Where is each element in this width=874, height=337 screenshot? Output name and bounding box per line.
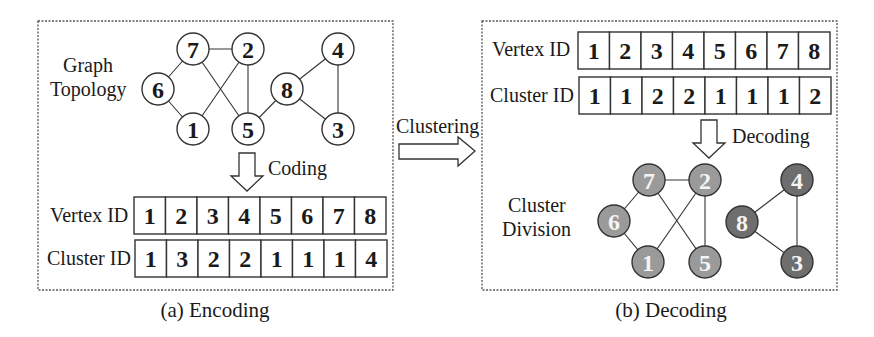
svg-text:1: 1 [778, 83, 790, 109]
svg-text:1: 1 [588, 38, 600, 64]
svg-text:1: 1 [334, 246, 346, 272]
node-label: 6 [608, 209, 620, 235]
table-cell: 2 [800, 77, 832, 114]
dec-vertex-id-row: 12345678 [578, 32, 830, 69]
graph-topology-label-2: Topology [50, 78, 126, 101]
table-cell: 6 [736, 32, 768, 69]
svg-text:1: 1 [144, 203, 156, 229]
dec-node-3: 3 [781, 246, 813, 278]
svg-text:2: 2 [208, 246, 220, 272]
decoding-caption: (b) Decoding [615, 298, 727, 322]
enc-vertex-id-label: Vertex ID [50, 204, 128, 226]
decoding-arrow-icon [693, 120, 725, 158]
svg-text:1: 1 [589, 83, 601, 109]
svg-text:8: 8 [808, 38, 820, 64]
table-cell: 1 [135, 240, 167, 277]
node-label: 3 [332, 117, 344, 143]
table-cell: 3 [197, 197, 229, 234]
encoding-caption: (a) Encoding [160, 298, 270, 322]
cluster-division-label-1: Cluster [508, 194, 566, 216]
node-label: 6 [152, 77, 164, 103]
node-label: 1 [642, 250, 654, 276]
table-cell: 1 [293, 240, 325, 277]
svg-text:4: 4 [365, 246, 377, 272]
table-cell: 1 [737, 77, 769, 114]
coding-label: Coding [268, 157, 327, 180]
table-cell: 1 [705, 77, 737, 114]
table-cell: 2 [674, 77, 706, 114]
table-cell: 7 [767, 32, 799, 69]
node-label: 3 [791, 250, 803, 276]
svg-text:7: 7 [777, 38, 789, 64]
enc-node-1: 1 [177, 113, 209, 145]
dec-vertex-id-label: Vertex ID [492, 38, 570, 60]
dec-node-2: 2 [689, 164, 721, 196]
enc-node-6: 6 [142, 73, 174, 105]
table-cell: 4 [673, 32, 705, 69]
svg-text:8: 8 [364, 203, 376, 229]
svg-text:1: 1 [302, 246, 314, 272]
clustering-step: Clustering [396, 115, 479, 166]
table-cell: 7 [323, 197, 355, 234]
enc-vertex-id-row: 12345678 [134, 197, 386, 234]
svg-text:1: 1 [715, 83, 727, 109]
table-cell: 2 [642, 77, 674, 114]
dec-node-4: 4 [781, 164, 813, 196]
svg-text:2: 2 [175, 203, 187, 229]
dec-cluster-id-row: 11221112 [579, 77, 831, 114]
enc-cluster-id-row: 13221114 [135, 240, 387, 277]
node-label: 4 [791, 168, 803, 194]
enc-node-4: 4 [322, 33, 354, 65]
enc-node-3: 3 [322, 113, 354, 145]
table-cell: 1 [134, 197, 166, 234]
enc-node-2: 2 [232, 33, 264, 65]
node-label: 7 [187, 37, 199, 63]
table-cell: 2 [610, 32, 642, 69]
graph-topology-label-1: Graph [63, 54, 113, 77]
svg-text:2: 2 [683, 83, 695, 109]
encoding-decoding-diagram: Graph Topology 72468153 Coding Vertex ID… [0, 0, 874, 337]
table-cell: 2 [230, 240, 262, 277]
table-cell: 6 [292, 197, 324, 234]
table-cell: 3 [641, 32, 673, 69]
coding-arrow-icon [231, 153, 263, 191]
table-cell: 2 [198, 240, 230, 277]
dec-cluster-id-label: Cluster ID [490, 84, 574, 106]
table-cell: 8 [799, 32, 831, 69]
svg-text:7: 7 [333, 203, 345, 229]
table-cell: 1 [611, 77, 643, 114]
table-cell: 3 [167, 240, 199, 277]
node-label: 5 [242, 117, 254, 143]
table-cell: 1 [261, 240, 293, 277]
svg-text:1: 1 [620, 83, 632, 109]
svg-text:2: 2 [809, 83, 821, 109]
svg-text:2: 2 [619, 38, 631, 64]
encoding-panel: Graph Topology 72468153 Coding Vertex ID… [38, 21, 393, 322]
node-label: 4 [332, 37, 344, 63]
dec-node-5: 5 [689, 246, 721, 278]
svg-text:2: 2 [652, 83, 664, 109]
enc-node-7: 7 [177, 33, 209, 65]
svg-text:3: 3 [207, 203, 219, 229]
svg-text:6: 6 [301, 203, 313, 229]
svg-text:4: 4 [238, 203, 250, 229]
table-cell: 8 [355, 197, 387, 234]
node-label: 1 [187, 117, 199, 143]
dec-node-7: 7 [633, 164, 665, 196]
svg-text:1: 1 [746, 83, 758, 109]
table-cell: 1 [579, 77, 611, 114]
svg-text:6: 6 [745, 38, 757, 64]
enc-node-5: 5 [232, 113, 264, 145]
clustering-label: Clustering [396, 115, 479, 138]
table-cell: 5 [260, 197, 292, 234]
svg-text:2: 2 [239, 246, 251, 272]
svg-text:4: 4 [682, 38, 694, 64]
svg-text:3: 3 [176, 246, 188, 272]
table-cell: 4 [229, 197, 261, 234]
table-cell: 1 [578, 32, 610, 69]
table-cell: 2 [166, 197, 198, 234]
node-label: 8 [736, 210, 748, 236]
table-cell: 1 [768, 77, 800, 114]
table-cell: 5 [704, 32, 736, 69]
svg-text:5: 5 [270, 203, 282, 229]
